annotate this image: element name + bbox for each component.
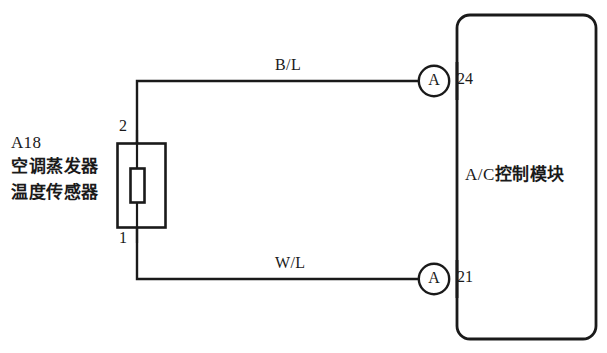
- connector-letter-lower: A: [419, 270, 449, 286]
- thermistor-element-rect: [131, 169, 145, 203]
- module-pin-21-label: 21: [457, 269, 473, 285]
- module-pin-24-label: 24: [457, 71, 473, 87]
- connector-letter-upper: A: [419, 72, 449, 88]
- sensor-id-code: A18: [11, 134, 41, 151]
- wire-label-lower: W/L: [275, 255, 306, 271]
- wire-path-upper: [137, 81, 419, 227]
- control-module-name: A/C控制模块: [465, 166, 565, 183]
- wire-upper-conductor: [137, 81, 419, 227]
- sensor-name-line-1: 空调蒸发器: [11, 158, 99, 175]
- control-module-name-prefix: A/C: [465, 165, 495, 184]
- control-module-name-suffix: 控制模块: [495, 164, 565, 184]
- wire-label-upper: B/L: [275, 57, 301, 73]
- sensor-name-line-2: 温度传感器: [11, 184, 99, 201]
- sensor-pin-1-label: 1: [119, 230, 127, 246]
- wiring-diagram-canvas: A18 空调蒸发器 温度传感器 2 1 B/L W/L A A 24 21 A/…: [0, 0, 607, 353]
- sensor-pin-2-label: 2: [119, 118, 127, 134]
